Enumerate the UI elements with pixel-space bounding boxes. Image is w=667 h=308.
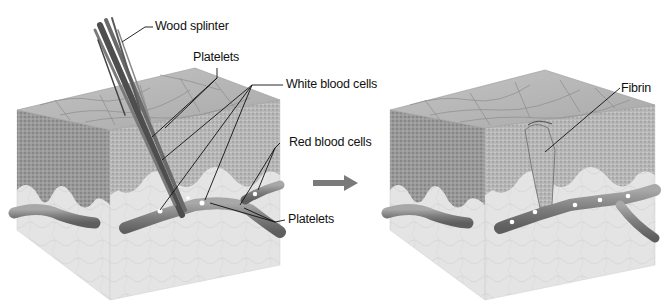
white-blood-cell (200, 201, 205, 206)
platelet (186, 196, 190, 200)
white-blood-cell (253, 192, 257, 196)
label-white-blood-cells: White blood cells (286, 77, 377, 91)
skin-block-before (14, 18, 280, 300)
label-red-blood-cells: Red blood cells (289, 135, 371, 149)
skin-block-after (387, 70, 655, 300)
blood-clotting-diagram (0, 0, 667, 308)
label-fibrin: Fibrin (621, 81, 651, 95)
label-platelets-top: Platelets (193, 50, 239, 64)
label-wood-splinter: Wood splinter (155, 19, 229, 33)
transition-arrow (313, 175, 358, 191)
label-platelets-bottom: Platelets (288, 212, 334, 226)
